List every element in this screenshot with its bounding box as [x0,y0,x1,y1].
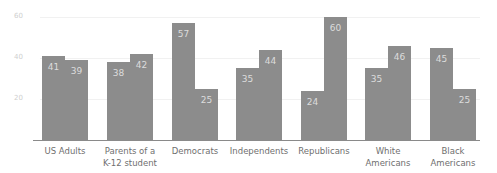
x-label-white-americans: WhiteAmericans [353,145,423,169]
x-label-text: Independents [230,146,288,156]
bar-parents-of-a-k-12-student-s1: 38 [107,62,130,140]
bar-black-americans-s2: 25 [453,89,476,140]
bar-value-label: 41 [42,62,65,72]
x-label-republicans: Republicans [289,145,359,157]
x-label-text: US Adults [45,146,86,156]
bar-value-label: 25 [195,95,218,105]
x-label-parents: Parents of aK-12 student [95,145,165,169]
x-label-independents: Independents [224,145,294,157]
bar-value-label: 25 [453,95,476,105]
bar-parents-of-a-k-12-student-s2: 42 [130,54,153,140]
x-label-text: White [376,146,401,156]
x-label-text: Republicans [298,146,349,156]
bar-value-label: 42 [130,60,153,70]
x-label-text: Americans [431,158,476,168]
x-label-text: Parents of a [105,146,155,156]
gridline-60 [40,17,480,18]
bar-us-adults-s2: 39 [65,60,88,140]
bar-value-label: 35 [236,74,259,84]
bar-democrats-s2: 25 [195,89,218,140]
bar-value-label: 44 [259,56,282,66]
bar-white-americans-s2: 46 [388,46,411,140]
bar-value-label: 46 [388,52,411,62]
bar-value-label: 24 [301,97,324,107]
x-axis-line [33,140,480,141]
bar-value-label: 45 [430,54,453,64]
bar-value-label: 57 [172,29,195,39]
bar-independents-s2: 44 [259,50,282,140]
bar-black-americans-s1: 45 [430,48,453,140]
bar-independents-s1: 35 [236,68,259,140]
bar-democrats-s1: 57 [172,23,195,140]
bar-chart: 60 40 20 4139384257253544246035464525 US… [0,0,497,173]
bar-value-label: 38 [107,68,130,78]
bar-white-americans-s1: 35 [365,68,388,140]
bar-republicans-s2: 60 [324,17,347,140]
y-tick-40: 40 [14,53,34,61]
x-label-text: Democrats [172,146,218,156]
x-label-text: K-12 student [103,158,157,168]
y-tick-60: 60 [14,12,34,20]
bar-value-label: 35 [365,74,388,84]
bar-us-adults-s1: 41 [42,56,65,140]
x-label-democrats: Democrats [160,145,230,157]
x-label-text: Black [442,146,465,156]
bar-value-label: 60 [324,23,347,33]
bar-value-label: 39 [65,66,88,76]
x-label-us-adults: US Adults [30,145,100,157]
x-label-black-americans: BlackAmericans [418,145,488,169]
x-label-text: Americans [366,158,411,168]
bar-republicans-s1: 24 [301,91,324,140]
y-tick-20: 20 [14,94,34,102]
